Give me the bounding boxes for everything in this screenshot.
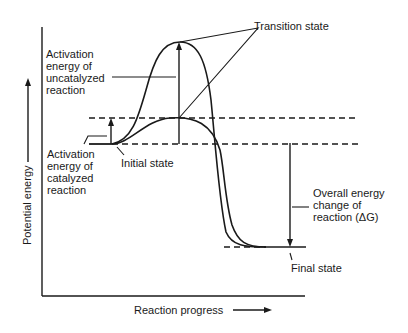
initial-state-label: Initial state (121, 157, 174, 169)
final-state-leader (290, 253, 292, 260)
transition-state-label: Transition state (254, 20, 329, 32)
catalyzed-curve (112, 118, 266, 247)
transition-state-leader (179, 28, 258, 118)
overall-change-label: Overall energy change of reaction (ΔG) (313, 187, 385, 223)
y-axis-label: Potential energy (21, 166, 33, 246)
catalyzed-activation-label: Activation energy of catalyzed reaction (47, 148, 95, 196)
catalyzed-leader (84, 136, 107, 144)
uncatalyzed-activation-label: Activation energy of uncatalyzed reactio… (46, 48, 105, 96)
initial-state-leader (117, 147, 124, 155)
final-state-label: Final state (291, 262, 342, 274)
x-axis-label: Reaction progress (134, 304, 223, 316)
